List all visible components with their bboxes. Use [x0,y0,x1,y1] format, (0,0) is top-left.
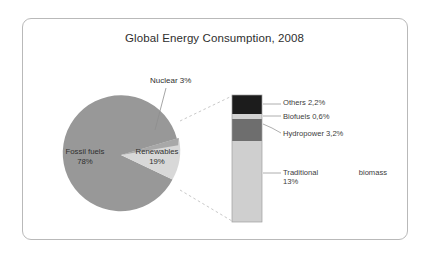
bar-segment-others [232,95,262,114]
bar-label-biomass-word1: Traditional [283,168,318,177]
pie-label-renewables-name: Renewables [126,147,188,157]
callout-dashed-bottom [180,190,232,221]
pie-label-renewables: Renewables 19% [126,147,188,166]
bar-label-traditional-biomass: Traditional biomass 13% [283,168,391,187]
pie-label-nuclear: Nuclear 3% [150,76,191,85]
leader-line-hydropower [263,124,281,133]
bar-label-hydropower: Hydropower 3,2% [283,129,343,138]
bar-label-biomass-words: Traditional biomass [283,168,387,177]
bar-label-biofuels: Biofuels 0,6% [283,112,329,121]
bar-segment-biofuels [232,114,262,119]
pie-label-fossil-fuels: Fossil fuels 78% [52,147,118,166]
chart-graphics [0,0,429,255]
bar-segment-traditional-biomass [232,141,262,222]
pie-label-fossil-fuels-value: 78% [52,157,118,167]
bar-label-biomass-word2: biomass [359,168,387,177]
callout-dashed-top [180,96,232,121]
bar-label-others: Others 2,2% [283,98,325,107]
pie-label-fossil-fuels-name: Fossil fuels [52,147,118,157]
chart-figure: Global Energy Consumption, 2008 Nuclear … [0,0,429,255]
pie-label-renewables-value: 19% [126,157,188,167]
bar-segment-hydropower [232,119,262,141]
bar-label-biomass-value: 13% [283,177,391,186]
